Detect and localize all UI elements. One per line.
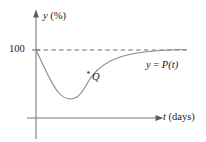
x-axis-label: t (days) bbox=[163, 112, 195, 123]
curve-p-of-t bbox=[36, 50, 186, 99]
point-q-marker bbox=[87, 71, 90, 74]
y-axis-arrowhead bbox=[33, 10, 39, 18]
y-tick-label-100: 100 bbox=[9, 44, 25, 55]
curve-equation-label: y = P(t) bbox=[146, 60, 178, 71]
x-axis-label-unit: (days) bbox=[166, 111, 195, 122]
curve-label-arg: (t) bbox=[168, 59, 178, 70]
y-axis-label: y (%) bbox=[43, 11, 66, 22]
curve-label-equals: = bbox=[151, 59, 162, 70]
y-axis-label-unit: (%) bbox=[48, 10, 66, 21]
point-q-label: Q bbox=[92, 72, 100, 83]
population-decay-figure: y (%) 100 y = P(t) Q t (days) bbox=[0, 0, 206, 142]
